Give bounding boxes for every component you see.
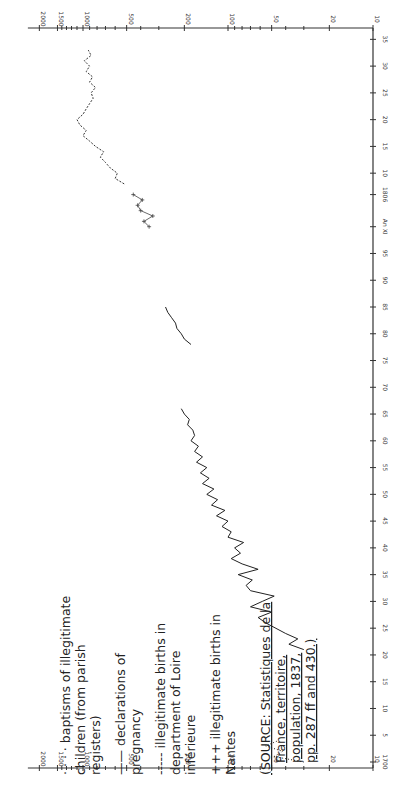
year-tick-label: 1806 [382,187,389,202]
year-tick-label: 30 [382,598,389,606]
year-tick-label: 75 [382,357,389,365]
year-tick-label: 1700 [382,754,389,769]
year-tick-label: 15 [382,143,389,151]
year-tick-label: 45 [382,517,389,525]
count-tick-label: 200 [185,13,192,25]
year-tick-label: 85 [382,303,389,311]
cross-marker [151,214,155,218]
year-tick-label: 30 [382,62,389,70]
legend-line: pregnancy [128,708,143,775]
legend-line: · · · · baptisms of illegitimate [58,595,73,775]
year-tick-label: 25 [382,89,389,97]
count-tick-label: 2000 [40,11,47,26]
year-tick-label: 60 [382,437,389,445]
chart-legend: · · · · baptisms of illegitimate childre… [58,595,318,775]
legend-line: Nantes [223,731,238,775]
legend-line: —— declarations of [113,653,128,775]
year-tick-label: 25 [382,624,389,632]
series-line-solid [181,409,303,650]
year-tick-label: 20 [382,651,389,659]
legend-line: department of Loire [168,650,183,775]
count-tick-label: 20 [330,755,337,763]
year-tick-label: 70 [382,383,389,391]
legend-line: +++ illegitimate births in [208,614,223,775]
series-line-crosses [133,195,153,227]
legend-line: ----- illegitimate births in [153,623,168,775]
source-citation-line: pp. 287 ff and 430.) [303,639,318,763]
year-tick-label: 35 [382,571,389,579]
count-tick-label: 50 [273,15,280,23]
year-tick-label: 55 [382,464,389,472]
year-tick-label: 10 [382,705,389,713]
legend-line: children (from parish [73,644,88,775]
count-tick-label: 10 [374,15,381,23]
year-tick-label: 90 [382,276,389,284]
year-tick-label: 80 [382,330,389,338]
count-tick-label: 1500 [58,11,65,26]
count-tick-label: 500 [128,13,135,25]
year-tick-label: 5 [382,733,389,737]
year-tick-label: 10 [382,169,389,177]
legend-line: registers) [88,715,103,775]
count-tick-label: 20 [330,15,337,23]
year-tick-label: 95 [382,250,389,258]
cross-marker [139,209,143,213]
count-tick-label: 2000 [40,751,47,766]
year-tick-label: 50 [382,491,389,499]
cross-marker [131,193,135,197]
series-line-solid [166,307,192,345]
year-tick-label: An XI [382,219,389,235]
count-tick-label: 100 [229,13,236,25]
source-citation-line: France, territoire, [273,655,288,763]
year-tick-label: 40 [382,544,389,552]
year-tick-label: 15 [382,678,389,686]
source-citation-line: population, 1837, [288,653,303,763]
series-line-dashed [77,50,124,184]
count-tick-label: 1000 [84,11,91,26]
rotated-line-chart: 1010202050501001002002005005001000100015… [0,0,396,791]
year-tick-label: 35 [382,36,389,44]
year-tick-label: 65 [382,410,389,418]
source-citation-line: (SOURCE: Statistiques de la [258,602,273,775]
year-tick-label: 20 [382,116,389,124]
legend-line: inférieure [183,714,198,775]
